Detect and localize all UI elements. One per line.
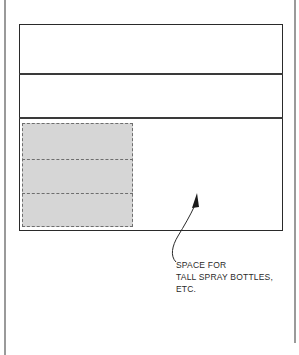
annotation-line-1: SPACE FOR — [176, 259, 273, 271]
annotation-line-3: ETC. — [176, 283, 273, 295]
annotation-line-2: TALL SPRAY BOTTLES, — [176, 271, 273, 283]
annotation-label: SPACE FOR TALL SPRAY BOTTLES, ETC. — [176, 259, 273, 295]
pointer-arrow-icon — [0, 0, 299, 355]
